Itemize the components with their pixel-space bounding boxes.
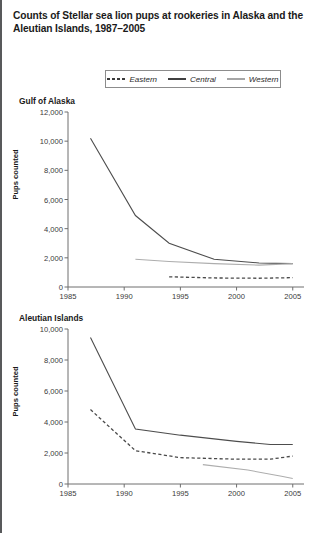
axis-lines — [68, 329, 304, 484]
x-tick-label: 2005 — [284, 292, 301, 301]
panel-title-aleutian-islands: Aleutian Islands — [19, 313, 83, 323]
series-line-central — [90, 338, 292, 445]
y-tick-label: 0 — [59, 480, 63, 489]
y-tick-label: 4,000 — [44, 418, 63, 427]
x-tick-label: 1990 — [116, 292, 133, 301]
plot-area-panel-1: 02,0004,0006,0008,00010,00012,0001985199… — [68, 112, 304, 287]
legend-label-eastern: Eastern — [129, 75, 157, 84]
x-tick-label: 2000 — [228, 489, 245, 498]
x-tick-label: 1985 — [60, 489, 77, 498]
y-tick-label: 10,000 — [40, 137, 63, 146]
panel-title-gulf-of-alaska: Gulf of Alaska — [19, 96, 75, 106]
y-tick-label: 2,000 — [44, 449, 63, 458]
legend-item-western: Western — [227, 75, 279, 84]
x-tick-label: 2005 — [284, 489, 301, 498]
x-tick-label: 1990 — [116, 489, 133, 498]
plot-svg-panel-1 — [68, 112, 304, 287]
series-line-central — [90, 138, 292, 263]
x-tick-label: 2000 — [228, 292, 245, 301]
y-tick-label: 6,000 — [44, 387, 63, 396]
x-tick-label: 1995 — [172, 292, 189, 301]
series-line-western — [135, 259, 292, 265]
y-tick-label: 12,000 — [40, 108, 63, 117]
chart-figure: Counts of Stellar sea lion pups at rooke… — [0, 0, 318, 533]
y-tick-label: 2,000 — [44, 253, 63, 262]
series-line-western — [203, 465, 293, 479]
legend-label-central: Central — [190, 75, 216, 84]
legend-item-eastern: Eastern — [107, 75, 157, 84]
series-line-eastern — [90, 410, 292, 460]
y-tick-label: 4,000 — [44, 224, 63, 233]
axis-lines — [68, 112, 304, 287]
y-tick-label: 6,000 — [44, 195, 63, 204]
legend-label-western: Western — [249, 75, 279, 84]
figure-title-block: Counts of Stellar sea lion pups at rooke… — [13, 9, 305, 35]
y-axis-label-panel-1: Pups counted — [11, 140, 20, 210]
series-line-eastern — [169, 277, 293, 278]
page-title: Counts of Stellar sea lion pups at rooke… — [13, 9, 305, 35]
y-tick-label: 0 — [59, 283, 63, 292]
x-tick-label: 1985 — [60, 292, 77, 301]
x-tick-label: 1995 — [172, 489, 189, 498]
y-tick-label: 8,000 — [44, 356, 63, 365]
legend-swatch-central-icon — [168, 78, 186, 79]
plot-area-panel-2: 02,0004,0006,0008,00010,0001985199019952… — [68, 329, 304, 484]
y-axis-label-panel-2: Pups counted — [11, 357, 20, 427]
plot-svg-panel-2 — [68, 329, 304, 484]
legend-item-central: Central — [168, 75, 216, 84]
chart-legend: Eastern Central Western — [105, 70, 281, 88]
legend-swatch-western-icon — [227, 78, 245, 79]
legend-swatch-eastern-icon — [107, 78, 125, 79]
y-tick-label: 10,000 — [40, 325, 63, 334]
y-tick-label: 8,000 — [44, 166, 63, 175]
